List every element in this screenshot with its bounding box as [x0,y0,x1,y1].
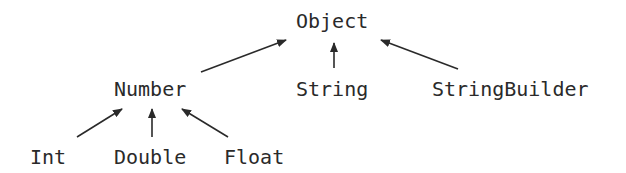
node-double: Double [114,145,186,169]
class-hierarchy-diagram: Object Number String StringBuilder Int D… [0,0,626,173]
edge-stringbuilder-to-object-arrow [381,40,458,69]
node-string: String [296,77,368,101]
edge-number-to-object-arrow [201,40,286,72]
node-object: Object [296,9,368,33]
node-number: Number [114,77,186,101]
node-float: Float [224,145,284,169]
node-int: Int [30,145,66,169]
node-stringbuilder: StringBuilder [432,77,589,101]
edge-int-to-number-arrow [77,109,122,137]
edge-float-to-number-arrow [182,109,228,137]
